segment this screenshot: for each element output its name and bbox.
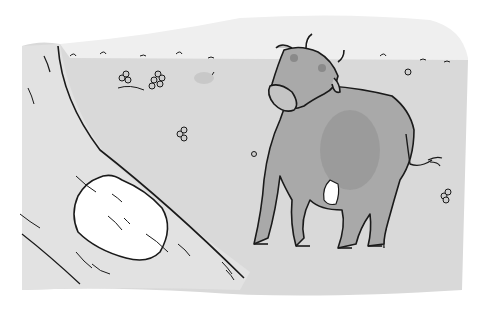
illustration: Ink and grey watercolor illustration of …	[0, 0, 488, 312]
sky-wash	[60, 15, 468, 62]
cow-field-drawing	[0, 0, 488, 312]
